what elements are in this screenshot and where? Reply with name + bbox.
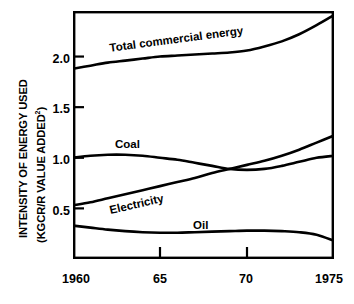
x-tick-label-65: 65 [153, 272, 167, 286]
x-tick-label-70: 70 [239, 272, 253, 286]
curve-coal [73, 155, 334, 170]
curve-electricity [73, 136, 334, 206]
y-tick-label-0-5: 0.5 [40, 205, 70, 218]
y-tick-label-1-0: 1.0 [40, 154, 70, 167]
series-label-oil: Oil [193, 219, 208, 231]
y-axis-title-line1: INTENSITY OF ENERGY USED [17, 79, 29, 238]
x-axis-tick-labels: 1960 65 70 1975 [0, 272, 354, 292]
plot-area: Total commercial energy Coal Electricity… [73, 11, 334, 259]
y-tick-label-2-0: 2.0 [40, 53, 70, 66]
y-axis-tick-labels: 2.0 1.5 1.0 0.5 [38, 0, 70, 268]
y-tick-label-1-5: 1.5 [40, 103, 70, 116]
y-axis-ticks [74, 57, 84, 209]
x-tick-label-1975: 1975 [315, 272, 343, 286]
x-tick-label-1960: 1960 [62, 272, 90, 286]
series-label-coal: Coal [115, 138, 140, 150]
chart-figure: INTENSITY OF ENERGY USED (KGCR/R VALUE A… [0, 0, 354, 304]
x-axis-ticks [160, 247, 247, 258]
